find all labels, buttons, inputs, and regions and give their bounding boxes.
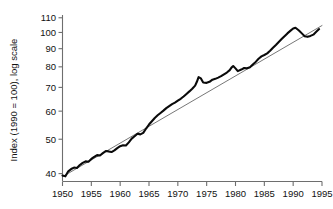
x-tick-label: 1985 [254, 188, 275, 199]
x-tick-label: 1950 [52, 188, 73, 199]
x-tick-label: 1965 [138, 188, 159, 199]
chart-container: Index (1990 = 100), log scale 4050607080… [0, 0, 333, 209]
x-tick-label: 1975 [196, 188, 217, 199]
x-tick-label: 1990 [283, 188, 304, 199]
y-tick-label: 40 [45, 168, 56, 179]
y-tick-label: 70 [45, 82, 56, 93]
y-tick-labels: 405060708090100110 [40, 12, 56, 179]
y-tick-label: 50 [45, 134, 56, 145]
axes: 405060708090100110 195019551960196519701… [40, 12, 332, 198]
x-tick-label: 1955 [81, 188, 102, 199]
x-tick-label: 1960 [110, 188, 131, 199]
y-tick-label: 100 [40, 27, 56, 38]
y-tick-label: 110 [41, 12, 56, 23]
x-tick-label: 1970 [167, 188, 188, 199]
y-tick-marks [59, 18, 63, 174]
y-axis-label: Index (1990 = 100), log scale [8, 39, 19, 162]
data-series-group [63, 26, 323, 177]
x-tick-labels: 1950195519601965197019751980198519901995 [52, 188, 333, 199]
y-tick-label: 80 [45, 61, 56, 72]
x-tick-label: 1980 [225, 188, 246, 199]
x-tick-marks [63, 182, 323, 187]
y-tick-label: 60 [45, 106, 56, 117]
y-axis-title: Index (1990 = 100), log scale [8, 39, 19, 162]
x-tick-label: 1995 [311, 188, 332, 199]
y-tick-label: 90 [45, 43, 56, 54]
line-chart: Index (1990 = 100), log scale 4050607080… [0, 0, 333, 209]
